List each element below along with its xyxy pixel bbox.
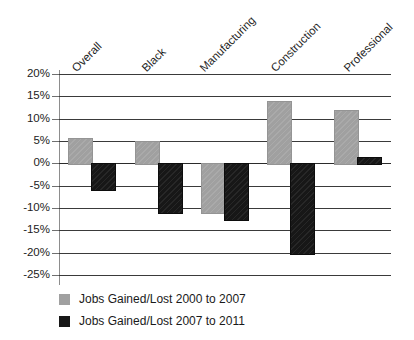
y-tick [52, 119, 59, 120]
y-tick-label: 0% [33, 157, 50, 169]
bar-overall-series2 [91, 163, 116, 191]
bar-manufacturing-series1 [201, 163, 226, 214]
category-label-professional: Professional [342, 21, 395, 74]
y-tick-label: -5% [30, 180, 50, 192]
y-tick [52, 186, 59, 187]
bar-construction-series1 [267, 101, 292, 166]
y-tick-label: -20% [23, 247, 50, 259]
plot-area [59, 74, 391, 275]
y-tick-label: -10% [23, 202, 50, 214]
y-tick [52, 96, 59, 97]
y-axis-labels: 20% 15% 10% 5% 0% -5% -10% -15% -20% -25… [0, 74, 50, 275]
gridline-minus15 [59, 230, 391, 231]
y-tick-label: 20% [27, 68, 50, 80]
y-tick [52, 141, 59, 142]
category-label-black: Black [140, 46, 168, 74]
gridline-minus20 [59, 253, 391, 254]
gray-swatch-icon [59, 294, 70, 305]
bar-construction-series2 [290, 163, 315, 254]
y-tick [52, 230, 59, 231]
bar-black-series1 [135, 141, 160, 165]
bar-professional-series2 [357, 157, 382, 166]
legend-label: Jobs Gained/Lost 2000 to 2007 [79, 292, 246, 306]
bar-professional-series1 [334, 110, 359, 166]
y-tick-label: -15% [23, 224, 50, 236]
y-tick-label: 15% [27, 90, 50, 102]
y-tick-label: 10% [27, 113, 50, 125]
category-label-overall: Overall [70, 40, 104, 74]
gridline-minus25 [59, 275, 391, 276]
y-tick [52, 253, 59, 254]
bar-overall-series1 [68, 138, 93, 165]
legend-label: Jobs Gained/Lost 2007 to 2011 [79, 314, 245, 328]
y-tick [52, 74, 59, 75]
y-tick [52, 163, 59, 164]
legend-item-2007-2011: Jobs Gained/Lost 2007 to 2011 [59, 310, 399, 332]
gridline-15 [59, 96, 391, 97]
gridline-20 [59, 74, 391, 75]
legend-item-2000-2007: Jobs Gained/Lost 2000 to 2007 [59, 288, 399, 310]
y-tick [52, 275, 59, 276]
y-tick-label: 5% [33, 135, 50, 147]
bar-manufacturing-series2 [224, 163, 249, 221]
black-swatch-icon [59, 316, 70, 327]
category-label-construction: Construction [269, 20, 323, 74]
chart-legend: Jobs Gained/Lost 2000 to 2007 Jobs Gaine… [59, 288, 399, 332]
bar-black-series2 [158, 163, 183, 214]
y-tick [52, 208, 59, 209]
bar-chart: 20% 15% 10% 5% 0% -5% -10% -15% -20% -25… [0, 0, 414, 340]
category-label-manufacturing: Manufacturing [198, 14, 258, 74]
y-tick-label: -25% [23, 269, 50, 281]
